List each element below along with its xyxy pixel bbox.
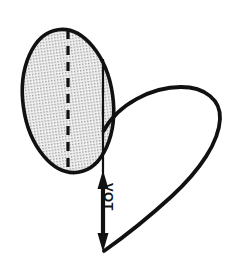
teardrop-loop: [104, 87, 221, 251]
vot-label: VOT: [100, 183, 116, 217]
figure-svg: [0, 0, 236, 277]
figure-canvas: VOT: [0, 0, 236, 277]
